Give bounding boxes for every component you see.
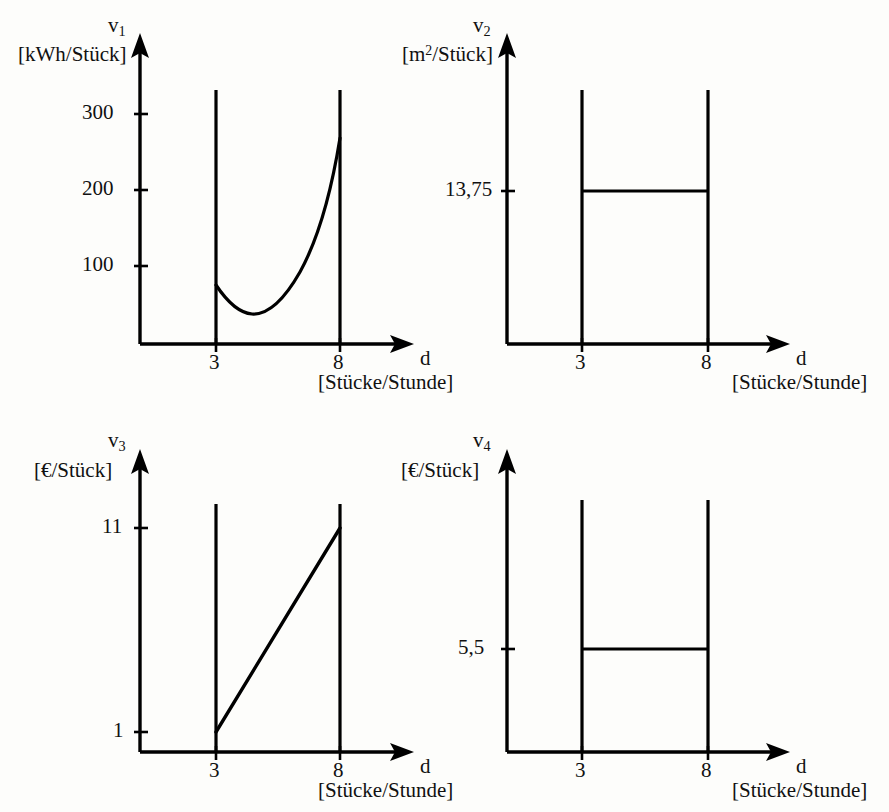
y-axis-v2	[498, 33, 516, 344]
y-axis-unit-v4: [€/Stück]	[401, 460, 479, 481]
y-axis-v1	[131, 33, 149, 344]
x-axis-variable-v2: d	[796, 348, 807, 369]
y-axis-unit-v2: [m2/Stück]	[402, 44, 493, 65]
x-axis-v1	[140, 335, 414, 353]
x-axis-variable-v1: d	[420, 348, 431, 369]
x-axis-variable-v3: d	[420, 756, 431, 777]
y-axis-unit-v3: [€/Stück]	[34, 460, 112, 481]
chart-v3: v3 [€/Stück] 11 1 3 8 d [Stücke/Stunde]	[0, 408, 450, 812]
y-axis-unit-v1: [kWh/Stück]	[18, 44, 126, 65]
domain-boundaries-v4	[582, 500, 708, 752]
chart-v4: v4 [€/Stück] 5,5 3 8 d [Stücke/Stunde]	[440, 408, 889, 812]
y-tick-label-v1-200: 200	[82, 178, 114, 199]
y-axis-variable-v4: v4	[473, 430, 491, 453]
x-tick-label-v2-3: 3	[575, 352, 586, 373]
y-tick-label-v3-11: 11	[102, 516, 122, 537]
x-axis-unit-v4: [Stücke/Stunde]	[732, 780, 867, 801]
x-tick-label-v4-3: 3	[575, 760, 586, 781]
x-axis-variable-v4: d	[796, 756, 807, 777]
x-axis-v2	[507, 335, 790, 353]
y-axis-variable-v2: v2	[473, 15, 491, 38]
chart-v2: v2 [m2/Stück] 13,75 3 8 d [Stücke/Stunde…	[440, 0, 889, 400]
domain-boundaries-v2	[582, 90, 708, 344]
chart-v1: v1 [kWh/Stück] 300 200 100 3 8 d [Stücke…	[0, 0, 450, 400]
x-axis-v3	[140, 743, 414, 761]
x-axis-v4	[507, 743, 790, 761]
y-axis-v4	[498, 449, 516, 752]
y-axis-variable-v1: v1	[108, 15, 126, 38]
curve-v3	[216, 528, 340, 732]
x-tick-label-v4-8: 8	[701, 760, 712, 781]
x-axis-unit-v3: [Stücke/Stunde]	[318, 780, 453, 801]
chart-v2-canvas	[440, 0, 889, 400]
y-tick-label-v1-300: 300	[82, 102, 114, 123]
x-tick-label-v3-3: 3	[209, 760, 220, 781]
x-tick-label-v1-3: 3	[209, 352, 220, 373]
curve-v1	[216, 138, 340, 314]
x-axis-unit-v2: [Stücke/Stunde]	[732, 372, 867, 393]
y-axis-v3	[131, 449, 149, 752]
y-tick-label-v3-1: 1	[113, 720, 124, 741]
y-tick-label-v4-5-5: 5,5	[458, 637, 484, 658]
y-tick-label-v2-13-75: 13,75	[445, 179, 492, 200]
chart-v4-canvas	[440, 408, 889, 812]
x-tick-label-v2-8: 8	[701, 352, 712, 373]
y-axis-variable-v3: v3	[108, 430, 126, 453]
y-tick-label-v1-100: 100	[82, 254, 114, 275]
x-axis-unit-v1: [Stücke/Stunde]	[318, 372, 453, 393]
figure-page: v1 [kWh/Stück] 300 200 100 3 8 d [Stücke…	[0, 0, 889, 812]
